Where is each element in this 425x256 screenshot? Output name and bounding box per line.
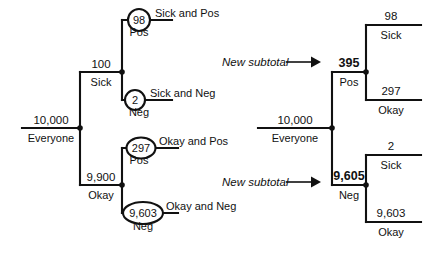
- left-sick-label: Sick: [91, 76, 112, 88]
- new-subtotal-label-neg: New subtotal: [222, 176, 289, 188]
- left-root-label: Everyone: [28, 132, 74, 144]
- right-root-value: 10,000: [277, 114, 312, 126]
- left-okay-label: Okay: [88, 189, 114, 201]
- figure-canvas: 98 2 297 9,603 10,000 Everyone 100 Sick …: [0, 0, 425, 256]
- right-root-label: Everyone: [272, 132, 318, 144]
- right-posokay-label: Okay: [378, 104, 404, 116]
- left-sickpos-outcome: Sick and Pos: [155, 7, 220, 19]
- left-tree-labels: 10,000 Everyone 100 Sick 9,900 Okay Pos …: [28, 7, 237, 232]
- right-negsick-value: 2: [388, 140, 394, 152]
- new-subtotal-label-pos: New subtotal: [222, 56, 289, 68]
- okay-and-neg-value: 9,603: [129, 207, 157, 219]
- left-sick-value: 100: [91, 58, 110, 70]
- left-okaypos-label: Pos: [130, 154, 149, 166]
- left-sick-junction-dot: [119, 69, 125, 75]
- right-pos-junction-dot: [363, 69, 369, 75]
- right-neg-value: 9,605: [333, 169, 364, 183]
- new-subtotal-arrow-head-neg: [311, 177, 321, 188]
- new-subtotal-arrow-head-pos: [311, 57, 321, 68]
- left-root-value: 10,000: [33, 114, 68, 126]
- right-negokay-value: 9,603: [377, 207, 406, 219]
- tree-diagram-svg: 98 2 297 9,603 10,000 Everyone 100 Sick …: [0, 0, 425, 256]
- right-tree-labels: 10,000 Everyone 395 Pos 9,605 Neg 98 Sic…: [272, 10, 406, 238]
- left-okayneg-outcome: Okay and Neg: [166, 200, 236, 212]
- right-negsick-label: Sick: [381, 159, 402, 171]
- sick-and-pos-value: 98: [133, 14, 145, 26]
- right-possick-label: Sick: [381, 29, 402, 41]
- left-okaypos-outcome: Okay and Pos: [159, 135, 229, 147]
- right-neg-junction-dot: [363, 182, 369, 188]
- left-okayneg-label: Neg: [133, 220, 153, 232]
- right-pos-label: Pos: [340, 76, 359, 88]
- left-okay-junction-dot: [119, 182, 125, 188]
- right-root-junction-dot: [329, 125, 335, 131]
- left-sickpos-label: Pos: [130, 26, 149, 38]
- right-posokay-value: 297: [381, 85, 400, 97]
- right-pos-value: 395: [339, 56, 360, 70]
- right-negokay-label: Okay: [378, 226, 404, 238]
- left-okay-value: 9,900: [87, 171, 116, 183]
- left-sickneg-label: Neg: [129, 106, 149, 118]
- okay-and-pos-value: 297: [132, 142, 150, 154]
- left-root-junction-dot: [77, 125, 83, 131]
- sick-and-neg-value: 2: [132, 94, 138, 106]
- right-possick-value: 98: [385, 10, 398, 22]
- left-sickneg-outcome: Sick and Neg: [150, 87, 215, 99]
- right-neg-label: Neg: [339, 189, 359, 201]
